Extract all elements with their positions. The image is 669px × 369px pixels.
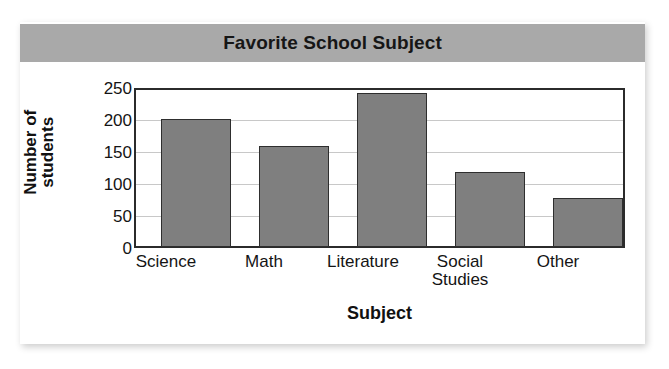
y-axis-title-line-2: students: [39, 82, 56, 222]
x-axis-title: Subject: [134, 303, 625, 324]
x-tick-label-math-line-1: Math: [219, 253, 309, 271]
x-tick-label-math: Math: [219, 253, 309, 271]
x-tick-label-other-line-1: Other: [513, 253, 603, 271]
y-axis-title-line-1: Number of: [22, 82, 39, 222]
x-tick-label-science: Science: [121, 253, 211, 271]
bar-series: [134, 88, 625, 248]
y-tick-label-150: 150: [86, 144, 132, 161]
x-tick-label-science-line-1: Science: [121, 253, 211, 271]
bar-other: [553, 198, 623, 247]
bar-math: [259, 146, 329, 247]
x-tick-label-other: Other: [513, 253, 603, 271]
y-axis-title: Number of students: [22, 82, 57, 222]
chart-image: Favorite School Subject Number of studen…: [0, 0, 669, 369]
y-tick-label-50: 50: [86, 208, 132, 225]
bar-science: [161, 119, 231, 247]
x-tick-label-social-studies-line-1: Social: [415, 253, 505, 271]
y-tick-label-250: 250: [86, 80, 132, 97]
bar-social-studies: [455, 172, 525, 247]
x-tick-label-literature: Literature: [313, 253, 413, 271]
x-tick-label-literature-line-1: Literature: [313, 253, 413, 271]
y-tick-label-100: 100: [86, 176, 132, 193]
bar-literature: [357, 93, 427, 247]
x-tick-label-social-studies: Social Studies: [415, 253, 505, 290]
y-tick-label-200: 200: [86, 112, 132, 129]
x-tick-label-social-studies-line-2: Studies: [415, 271, 505, 289]
chart-plot-area: Number of students 250 200 150 100 50 0 …: [0, 0, 669, 369]
